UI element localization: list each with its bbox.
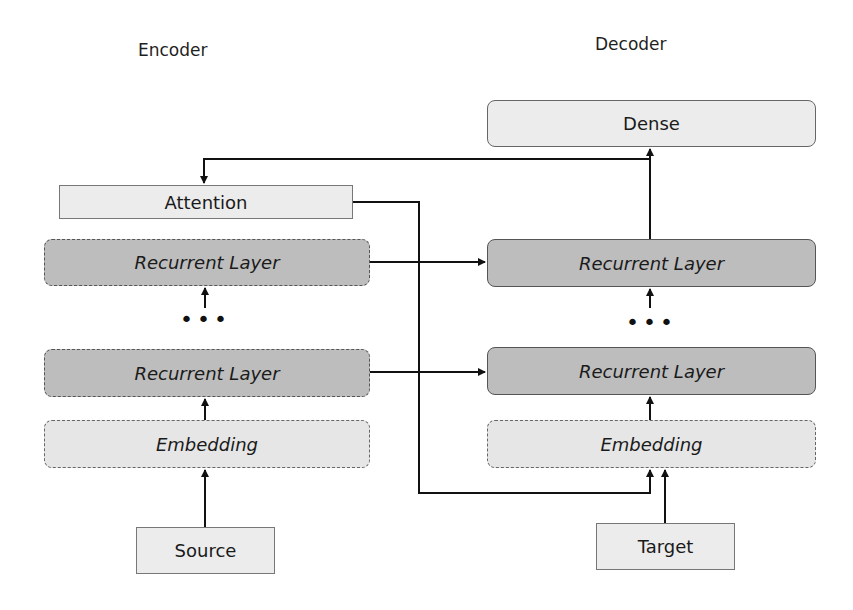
decoder-embedding: Embedding bbox=[487, 420, 816, 468]
decoder-recurrent-bottom-label: Recurrent Layer bbox=[579, 361, 724, 382]
encoder-recurrent-layer-bottom: Recurrent Layer bbox=[44, 349, 370, 397]
source-box: Source bbox=[136, 527, 275, 574]
encoder-recurrent-bottom-label: Recurrent Layer bbox=[134, 363, 279, 384]
attention-label: Attention bbox=[164, 192, 247, 213]
connection-arrows bbox=[0, 0, 853, 610]
encoder-recurrent-layer-top: Recurrent Layer bbox=[44, 239, 370, 286]
decoder-embedding-label: Embedding bbox=[600, 434, 702, 455]
target-label: Target bbox=[638, 536, 694, 557]
target-box: Target bbox=[596, 523, 735, 570]
attention-box: Attention bbox=[59, 185, 353, 219]
source-label: Source bbox=[175, 540, 237, 561]
encoder-ellipsis: ••• bbox=[180, 309, 231, 331]
decoder-title: Decoder bbox=[595, 34, 667, 54]
encoder-embedding-label: Embedding bbox=[156, 434, 258, 455]
decoder-recurrent-layer-top: Recurrent Layer bbox=[487, 239, 816, 287]
dense-label: Dense bbox=[623, 113, 680, 134]
decoder-ellipsis: ••• bbox=[626, 312, 677, 334]
decoder-recurrent-layer-bottom: Recurrent Layer bbox=[487, 347, 816, 395]
decoder-recurrent-top-label: Recurrent Layer bbox=[579, 253, 724, 274]
dense-box: Dense bbox=[487, 100, 816, 147]
encoder-embedding: Embedding bbox=[44, 420, 370, 468]
encoder-recurrent-top-label: Recurrent Layer bbox=[134, 252, 279, 273]
encoder-title: Encoder bbox=[138, 40, 208, 60]
